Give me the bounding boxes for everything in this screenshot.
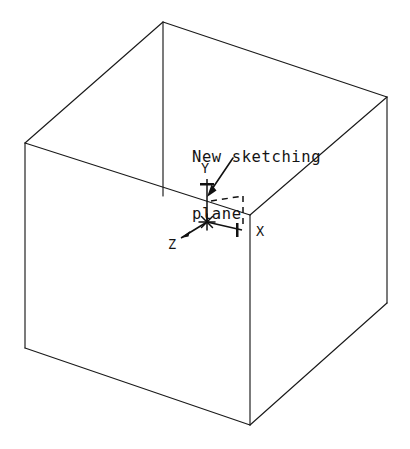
- z-axis-label: Z: [168, 237, 176, 251]
- callout-text: New sketching plane: [192, 110, 321, 262]
- cube-edge-top-apex-to-right: [163, 22, 387, 97]
- x-axis-label: X: [256, 224, 264, 238]
- cube-edge-bottom-left-to-front: [25, 348, 250, 425]
- callout-line-2: plane: [192, 205, 321, 224]
- cube-edge-top-apex-to-left: [25, 22, 163, 143]
- callout-line-1: New sketching: [192, 148, 321, 167]
- cube-edge-bottom-front-to-right: [250, 303, 387, 425]
- y-axis-label: Y: [201, 161, 209, 175]
- z-axis-arrowhead: [181, 231, 190, 238]
- sketching-plane-figure: New sketching plane Y X Z: [0, 0, 410, 449]
